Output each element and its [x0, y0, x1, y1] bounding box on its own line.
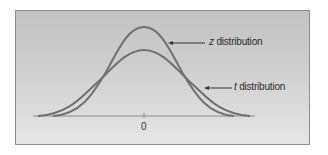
t-arrow-head	[204, 86, 209, 90]
t-distribution-curve	[38, 50, 250, 116]
z-distribution-curve	[53, 27, 234, 116]
t-label-text: distribution	[237, 81, 286, 92]
distribution-chart	[0, 0, 328, 155]
z-arrow-head	[168, 41, 173, 45]
z-distribution-label: z distribution	[209, 36, 262, 47]
zero-tick-label: 0	[141, 121, 147, 132]
z-label-text: distribution	[214, 36, 263, 47]
t-distribution-label: t distribution	[234, 81, 285, 92]
